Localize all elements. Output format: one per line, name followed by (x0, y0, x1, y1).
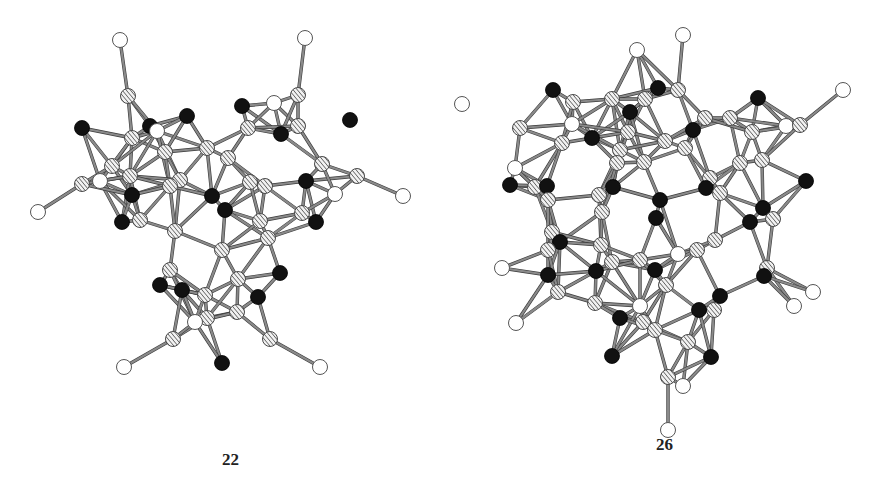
atom-hatched (566, 95, 581, 110)
atom-hatched (766, 212, 781, 227)
bonds-22 (38, 38, 403, 367)
atom-hatched (745, 125, 760, 140)
atom-black (153, 278, 168, 293)
atom-black (653, 193, 668, 208)
atom-hatched (633, 253, 648, 268)
atom-black (686, 123, 701, 138)
atom-hatched (243, 175, 258, 190)
atom-white-hydrogen (779, 119, 794, 134)
atom-black (743, 215, 758, 230)
atom-hatched (163, 179, 178, 194)
atom-white-hydrogen (508, 161, 523, 176)
atom-hatched (291, 88, 306, 103)
atom-white-hydrogen (633, 299, 648, 314)
atoms-26 (455, 28, 851, 438)
atom-black (235, 99, 250, 114)
atom-hatched (707, 303, 722, 318)
atom-hatched (198, 288, 213, 303)
atom-white-hydrogen (671, 247, 686, 262)
atom-black (541, 268, 556, 283)
atom-black (273, 266, 288, 281)
atom-white-hydrogen (495, 261, 510, 276)
atom-black (648, 263, 663, 278)
atom-black (251, 290, 266, 305)
atom-white-hydrogen (113, 33, 128, 48)
atom-white-hydrogen (630, 43, 645, 58)
atom-hatched (592, 188, 607, 203)
atom-hatched (350, 169, 365, 184)
atom-black (546, 83, 561, 98)
atom-white-hydrogen (328, 187, 343, 202)
atom-hatched (125, 131, 140, 146)
atom-black (649, 211, 664, 226)
atom-black (218, 203, 233, 218)
atom-black (585, 131, 600, 146)
atom-hatched (733, 156, 748, 171)
atom-hatched (671, 83, 686, 98)
atom-hatched (610, 156, 625, 171)
atom-white-hydrogen (836, 83, 851, 98)
atom-black (613, 311, 628, 326)
atom-hatched (713, 186, 728, 201)
atom-black (180, 109, 195, 124)
atom-hatched (648, 323, 663, 338)
atom-black (115, 215, 130, 230)
atom-hatched (75, 177, 90, 192)
atom-hatched (659, 278, 674, 293)
atom-hatched (678, 141, 693, 156)
atom-hatched (555, 136, 570, 151)
bond (612, 50, 637, 99)
atom-hatched (231, 272, 246, 287)
atom-hatched (605, 255, 620, 270)
atom-black (175, 283, 190, 298)
atom-black (75, 121, 90, 136)
structure-label-26: 26 (656, 435, 673, 455)
bond (298, 38, 305, 95)
atom-black (751, 91, 766, 106)
atom-hatched (123, 169, 138, 184)
atom-hatched (755, 153, 770, 168)
atom-black (205, 189, 220, 204)
bond (124, 339, 173, 367)
atom-white-hydrogen (565, 117, 580, 132)
atom-black (651, 81, 666, 96)
atom-hatched (594, 238, 609, 253)
atom-hatched (163, 263, 178, 278)
atom-black (699, 181, 714, 196)
atom-hatched (708, 233, 723, 248)
molecular-structures-figure (0, 0, 869, 490)
atom-hatched (158, 145, 173, 160)
atom-hatched (638, 92, 653, 107)
atom-black (692, 303, 707, 318)
atom-white-hydrogen (31, 205, 46, 220)
atom-hatched (723, 111, 738, 126)
atom-hatched (221, 151, 236, 166)
atom-black (125, 188, 140, 203)
atom-hatched (215, 243, 230, 258)
atom-hatched (621, 125, 636, 140)
atom-black (274, 127, 289, 142)
atom-black (299, 174, 314, 189)
atom-hatched (658, 134, 673, 149)
atom-black (343, 113, 358, 128)
bond (270, 339, 320, 367)
atom-hatched (541, 243, 556, 258)
atom-hatched (258, 179, 273, 194)
atom-hatched (261, 231, 276, 246)
atom-black (713, 289, 728, 304)
atom-white-hydrogen (188, 315, 203, 330)
atom-hatched (133, 213, 148, 228)
atom-hatched (168, 224, 183, 239)
cluster-structure-22 (31, 31, 411, 375)
atom-hatched (613, 143, 628, 158)
bond (678, 35, 683, 90)
atom-white-hydrogen (396, 189, 411, 204)
atom-hatched (793, 118, 808, 133)
atom-hatched (105, 159, 120, 174)
atom-white-hydrogen (806, 285, 821, 300)
atom-hatched (315, 157, 330, 172)
atom-hatched (637, 155, 652, 170)
atom-hatched (698, 111, 713, 126)
atom-hatched (681, 335, 696, 350)
atom-hatched (241, 121, 256, 136)
